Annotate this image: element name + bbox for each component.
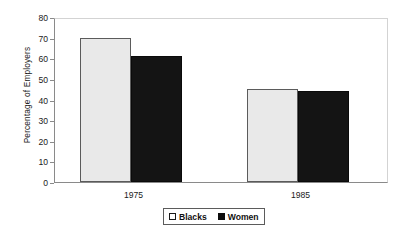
y-axis-tick-label: 40: [4, 96, 48, 106]
y-axis-tick-label: 30: [4, 116, 48, 126]
x-axis-tick-label: 1975: [94, 190, 174, 201]
y-axis-tick-label: 20: [4, 137, 48, 147]
bar-women-1975: [131, 56, 182, 182]
dark-square-icon: [218, 213, 225, 220]
legend-item-blacks: Blacks: [169, 212, 207, 222]
y-axis-tick-label: 70: [4, 34, 48, 44]
legend-label: Blacks: [179, 212, 207, 222]
y-axis-tick-label: 80: [4, 13, 48, 23]
bar-women-1985: [298, 91, 349, 182]
y-axis-tick-label: 50: [4, 75, 48, 85]
plot-area: [54, 18, 388, 183]
y-axis-tick-label: 10: [4, 157, 48, 167]
x-axis-tick-label: 1985: [261, 190, 341, 201]
legend-label: Women: [228, 212, 259, 222]
y-axis-tick-mark: [50, 183, 54, 184]
legend-item-women: Women: [218, 212, 259, 222]
y-axis-tick-label: 0: [4, 178, 48, 188]
chart-legend: BlacksWomen: [163, 208, 265, 225]
y-axis-tick-label: 60: [4, 54, 48, 64]
bar-blacks-1985: [247, 89, 298, 182]
bar-chart: Percentage of Employers 8070605040302010…: [0, 0, 401, 237]
bar-blacks-1975: [80, 38, 131, 182]
light-square-icon: [169, 213, 176, 220]
